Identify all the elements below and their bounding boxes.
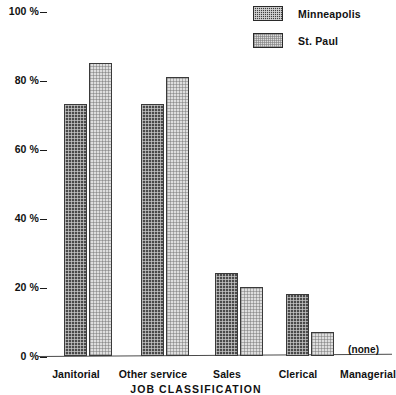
bar-minneapolis-other-service	[141, 104, 164, 356]
plot-area: Janitorial Other service Sales Clerical …	[38, 8, 392, 395]
x-tick-label-managerial: Managerial	[340, 368, 396, 380]
x-tick-label-clerical: Clerical	[279, 368, 318, 380]
x-tick-label-janitorial: Janitorial	[52, 368, 100, 380]
bar-st-paul-janitorial	[89, 63, 112, 356]
x-tick-label-other-service: Other service	[119, 368, 187, 380]
x-axis-title: JOB CLASSIFICATION	[0, 383, 392, 395]
bar-st-paul-clerical	[311, 332, 334, 356]
bar-st-paul-sales	[240, 287, 263, 356]
bar-minneapolis-sales	[215, 273, 238, 356]
x-tick-label-sales: Sales	[213, 368, 241, 380]
bar-st-paul-other-service	[166, 77, 189, 356]
bar-minneapolis-clerical	[286, 294, 309, 356]
bar-minneapolis-janitorial	[64, 104, 87, 356]
none-annotation: (none)	[348, 344, 379, 355]
